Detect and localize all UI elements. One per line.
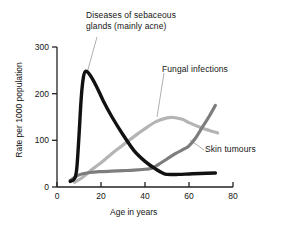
x-tick-label-60: 60 xyxy=(179,191,199,201)
x-tick-label-20: 20 xyxy=(91,191,111,201)
y-tick-label-0: 0 xyxy=(27,182,49,192)
x-tick-label-0: 0 xyxy=(47,191,67,201)
x-axis-title: Age in years xyxy=(110,207,157,217)
leader-line-fungal xyxy=(157,73,164,117)
x-axis-ticks xyxy=(57,182,233,187)
y-axis-ticks xyxy=(52,47,57,187)
annotation-acne-line1: Diseases of sebaceous xyxy=(86,10,176,20)
y-axis-title: Rate per 1000 population xyxy=(14,55,24,165)
chart-figure: 300 200 100 0 0 20 40 60 80 Age in years… xyxy=(0,0,283,227)
annotation-leader-lines xyxy=(87,37,204,150)
x-tick-label-40: 40 xyxy=(135,191,155,201)
leader-line-acne xyxy=(87,37,97,73)
y-tick-label-100: 100 xyxy=(27,135,49,145)
y-tick-label-200: 200 xyxy=(27,89,49,99)
annotation-skin-tumours: Skin tumours xyxy=(205,144,256,155)
x-tick-label-80: 80 xyxy=(223,191,243,201)
annotation-fungal: Fungal infections xyxy=(162,64,228,75)
annotation-acne: Diseases of sebaceous glands (mainly acn… xyxy=(86,10,176,32)
annotation-acne-line2: glands (mainly acne) xyxy=(86,21,176,32)
data-series-group xyxy=(70,71,217,182)
y-tick-label-300: 300 xyxy=(27,42,49,52)
